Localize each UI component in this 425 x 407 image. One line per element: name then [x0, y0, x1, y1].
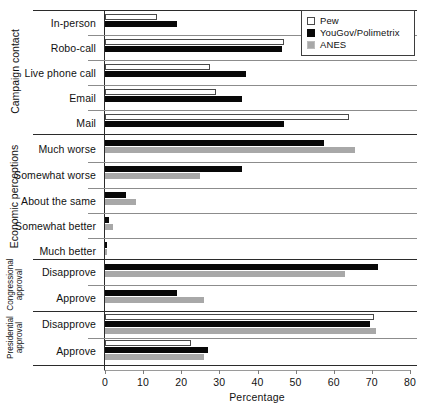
bar-pew: [105, 89, 216, 95]
bar-yougov-polimetrix: [105, 242, 107, 248]
bar-yougov-polimetrix: [105, 192, 126, 198]
legend-swatch-icon: [307, 41, 315, 49]
x-tick: [143, 370, 144, 374]
cat-label-somewhat-worse: Somewhat worse: [14, 169, 96, 181]
bar-yougov-polimetrix: [105, 71, 246, 77]
cat-label-much-worse: Much worse: [38, 143, 96, 155]
row-rule: [88, 60, 417, 61]
cat-label-cong-disapprove: Disapprove: [42, 266, 96, 278]
x-tick-label: 20: [175, 376, 187, 388]
cat-label-pres-disapprove: Disapprove: [42, 318, 96, 330]
legend: PewYouGov/PolimetrixANES: [301, 10, 415, 56]
panel-rule-bottom: [33, 365, 417, 366]
row-rule: [88, 285, 417, 286]
cat-label-about-the-same: About the same: [21, 195, 96, 207]
row-rule: [88, 85, 417, 86]
x-tick: [105, 370, 106, 374]
x-axis-label: Percentage: [104, 391, 410, 403]
bar-yougov-polimetrix: [105, 96, 242, 102]
bar-anes: [105, 173, 200, 179]
x-tick-label: 10: [137, 376, 149, 388]
cat-label-much-better: Much better: [39, 245, 96, 257]
cat-label-mail: Mail: [76, 117, 96, 129]
x-tick-label: 80: [404, 376, 416, 388]
x-tick: [181, 370, 182, 374]
x-tick: [219, 370, 220, 374]
bar-yougov-polimetrix: [105, 264, 378, 270]
bar-pew: [105, 14, 157, 20]
legend-label: Pew: [320, 15, 339, 26]
row-rule: [88, 162, 417, 163]
x-tick: [334, 370, 335, 374]
legend-item-pew: Pew: [307, 15, 409, 26]
bar-pew: [105, 340, 191, 346]
group-label-congressional-approval: Congressional approval: [0, 259, 30, 311]
cat-label-somewhat-better: Somewhat better: [15, 220, 96, 232]
x-tick-label: 50: [290, 376, 302, 388]
bar-yougov-polimetrix: [105, 166, 242, 172]
bar-anes: [105, 224, 113, 230]
bar-pew: [105, 314, 374, 320]
bar-yougov-polimetrix: [105, 217, 109, 223]
row-rule: [88, 238, 417, 239]
panel-rule-economic-bottom: [33, 259, 417, 260]
x-tick-label: 0: [102, 376, 108, 388]
x-tick-label: 30: [213, 376, 225, 388]
bar-anes: [105, 147, 355, 153]
bar-anes: [105, 297, 204, 303]
cat-label-cong-approve: Approve: [56, 292, 96, 304]
x-tick-label: 60: [328, 376, 340, 388]
row-rule: [88, 338, 417, 339]
cat-label-in-person: In-person: [51, 17, 96, 29]
cat-label-email: Email: [69, 92, 96, 104]
legend-label: YouGov/Polimetrix: [320, 27, 400, 38]
bar-pew: [105, 64, 210, 70]
cat-label-robo-call: Robo-call: [51, 42, 96, 54]
legend-swatch-icon: [307, 29, 315, 37]
legend-swatch-icon: [307, 17, 315, 25]
bar-anes: [105, 354, 204, 360]
cat-label-live-phone-call: Live phone call: [24, 67, 96, 79]
legend-item-yougov: YouGov/Polimetrix: [307, 27, 409, 38]
x-tick: [296, 370, 297, 374]
bar-anes: [105, 328, 376, 334]
panel-rule-campaign-bottom: [33, 134, 417, 135]
legend-item-anes: ANES: [307, 39, 409, 50]
legend-label: ANES: [320, 39, 346, 50]
row-rule: [88, 213, 417, 214]
cat-label-pres-approve: Approve: [56, 345, 96, 357]
bar-yougov-polimetrix: [105, 121, 284, 127]
bar-yougov-polimetrix: [105, 21, 177, 27]
bar-yougov-polimetrix: [105, 140, 324, 146]
bar-anes: [105, 271, 345, 277]
x-tick: [258, 370, 259, 374]
x-tick-label: 70: [366, 376, 378, 388]
x-tick: [410, 370, 411, 374]
x-tick: [372, 370, 373, 374]
row-rule: [88, 188, 417, 189]
bar-yougov-polimetrix: [105, 290, 177, 296]
bar-yougov-polimetrix: [105, 321, 370, 327]
panel-rule-congress-bottom: [33, 311, 417, 312]
bar-pew: [105, 114, 349, 120]
bar-anes: [105, 249, 107, 255]
row-rule: [88, 110, 417, 111]
bar-yougov-polimetrix: [105, 347, 208, 353]
x-tick-label: 40: [251, 376, 263, 388]
bar-pew: [105, 39, 284, 45]
bar-chart: 01020304050607080 Percentage Campaign co…: [0, 0, 425, 407]
group-label-presidential-approval: Presidential approval: [0, 311, 30, 365]
bar-yougov-polimetrix: [105, 46, 282, 52]
bar-anes: [105, 199, 136, 205]
